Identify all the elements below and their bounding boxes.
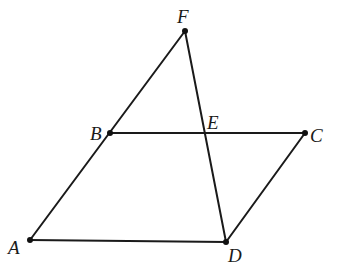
label-e: E [206, 112, 219, 133]
segment-af [30, 31, 185, 240]
segment-fd [185, 31, 226, 242]
segment-ad [30, 240, 226, 242]
point-b [107, 130, 113, 136]
label-f: F [176, 6, 189, 27]
label-a: A [6, 237, 20, 258]
point-c [302, 130, 308, 136]
label-d: D [227, 245, 242, 266]
geometry-diagram: F B E C A D [0, 0, 341, 277]
label-b: B [90, 123, 102, 144]
point-f [182, 28, 188, 34]
label-c: C [310, 125, 323, 146]
segment-cd [226, 133, 305, 242]
point-a [27, 237, 33, 243]
